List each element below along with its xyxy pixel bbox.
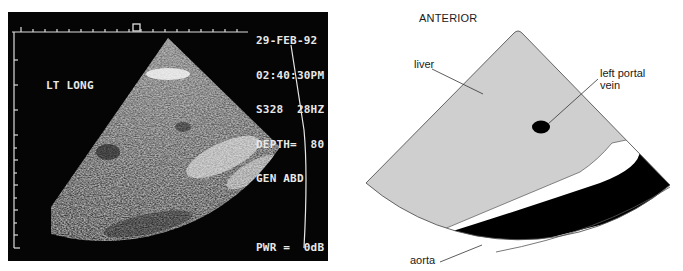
left-portal-vein-shape <box>532 121 550 134</box>
scan-time: 02:40:30PM <box>256 70 324 82</box>
depth-ruler-top <box>12 27 248 32</box>
left-portal-vein-label: left portal vein <box>600 67 645 91</box>
view-label: LT LONG <box>46 80 94 92</box>
orientation-label: ANTERIOR <box>419 12 477 24</box>
probe-frequency: S328 28HZ <box>256 104 324 116</box>
scan-depth: DEPTH= 80 <box>256 139 324 151</box>
liver-label: liver <box>414 58 434 70</box>
scan-info-panel: 29-FEB-92 02:40:30PM S328 28HZ DEPTH= 80… <box>256 12 324 261</box>
depth-ruler-left <box>14 32 20 248</box>
exam-preset: GEN ABD <box>256 173 324 185</box>
focus-marker-icon <box>133 24 140 31</box>
power-setting: PWR = 0dB <box>256 242 324 254</box>
aorta-leader-line <box>440 245 482 262</box>
anatomy-diagram <box>340 0 683 271</box>
scan-date: 29-FEB-92 <box>256 35 324 47</box>
ultrasound-image: LT LONG 29-FEB-92 02:40:30PM S328 28HZ D… <box>8 12 328 261</box>
aorta-label: aorta <box>410 254 435 266</box>
